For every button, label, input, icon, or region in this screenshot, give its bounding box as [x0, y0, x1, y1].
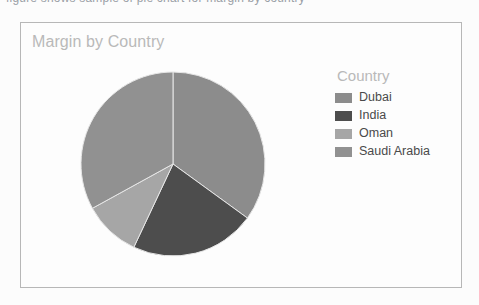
legend-item[interactable]: Dubai	[335, 89, 447, 106]
legend-item-label: Dubai	[359, 91, 392, 104]
legend-item[interactable]: Saudi Arabia	[335, 143, 447, 160]
legend-item-label: Saudi Arabia	[359, 145, 430, 158]
legend-swatch-icon	[335, 93, 352, 103]
legend-item[interactable]: Oman	[335, 125, 447, 142]
legend-item-list: DubaiIndiaOmanSaudi Arabia	[335, 89, 447, 160]
clipped-caption-strip: figure shows sample of pie chart for mar…	[0, 0, 479, 11]
legend-swatch-icon	[335, 129, 352, 139]
chart-legend: Country DubaiIndiaOmanSaudi Arabia	[335, 67, 447, 161]
legend-item-label: India	[359, 109, 386, 122]
legend-title: Country	[337, 67, 447, 84]
chart-card: Margin by Country Country DubaiIndiaOman…	[20, 22, 462, 288]
legend-swatch-icon	[335, 111, 352, 121]
legend-item-label: Oman	[359, 127, 393, 140]
legend-item[interactable]: India	[335, 107, 447, 124]
clipped-caption-text: figure shows sample of pie chart for mar…	[6, 0, 305, 5]
report-page: figure shows sample of pie chart for mar…	[0, 0, 479, 305]
legend-swatch-icon	[335, 147, 352, 157]
